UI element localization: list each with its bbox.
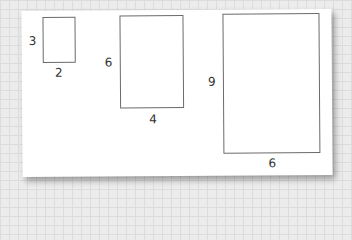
rectangle-small-height-label: 3 [29,35,37,47]
rectangle-large-width-label: 6 [268,157,276,169]
rectangle-large-height-label: 9 [208,76,216,88]
rectangle-small-width-label: 2 [55,67,63,79]
paper-sheet: 3 2 6 4 9 6 [21,9,332,177]
rectangle-medium-height-label: 6 [105,56,113,68]
rectangle-small [42,17,75,63]
rectangle-large [222,13,320,154]
rectangle-medium [119,15,184,108]
rectangle-medium-width-label: 4 [149,113,157,125]
